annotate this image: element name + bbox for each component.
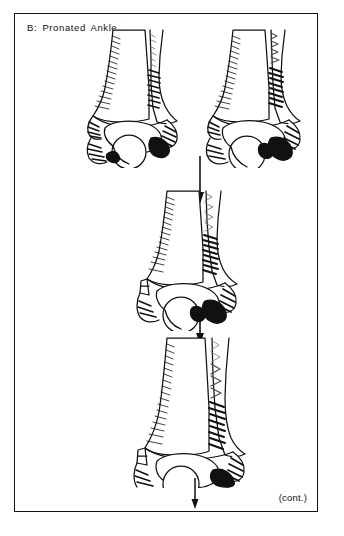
figure-frame: B: Pronated Ankle	[14, 13, 318, 512]
continuation-label: (cont.)	[279, 492, 307, 503]
figure-title: B: Pronated Ankle	[27, 22, 117, 33]
flow-arrow-1	[191, 156, 209, 206]
ankle-illustration-stage-1	[77, 28, 209, 168]
ankle-illustration-stage-4	[123, 336, 271, 488]
flow-arrow-2	[191, 317, 209, 345]
ankle-illustration-stage-2	[197, 28, 329, 168]
flow-arrow-3	[186, 478, 204, 510]
diagram-canvas	[15, 14, 317, 511]
ankle-illustration-stage-3	[127, 189, 267, 331]
